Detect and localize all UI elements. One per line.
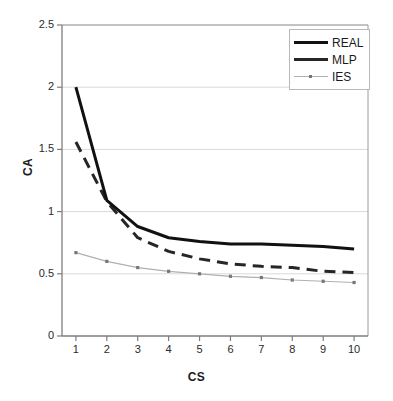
- y-axis-tick-label: 2: [14, 81, 54, 92]
- legend-item-mlp: MLP: [294, 51, 363, 68]
- data-point-marker-ies: [198, 272, 201, 275]
- x-axis-tick-label: 8: [277, 344, 307, 355]
- data-point-marker-ies: [136, 266, 139, 269]
- chart-figure: CA 00.511.522.5 12345678910 CS REAL MLP …: [0, 0, 393, 401]
- chart-legend: REAL MLP IES: [289, 29, 370, 90]
- x-axis-tick-label: 5: [185, 344, 215, 355]
- data-point-marker-ies: [352, 281, 355, 284]
- x-axis-tick-label: 6: [215, 344, 245, 355]
- legend-label-mlp: MLP: [332, 53, 357, 67]
- y-axis-tick-label: 1: [14, 206, 54, 217]
- x-axis-tick-label: 9: [308, 344, 338, 355]
- x-axis-title: CS: [0, 370, 393, 384]
- series-line-mlp: [76, 142, 354, 273]
- y-axis-tick-label: 0.5: [14, 268, 54, 279]
- y-axis-tick-labels: 00.511.522.5: [14, 0, 54, 401]
- dashed-line-sample-mlp-icon: [294, 54, 328, 66]
- x-axis-tick-label: 2: [92, 344, 122, 355]
- data-point-marker-ies: [291, 278, 294, 281]
- data-point-marker-ies: [105, 260, 108, 263]
- legend-label-ies: IES: [332, 70, 351, 84]
- series-line-real: [76, 87, 354, 249]
- legend-label-real: REAL: [332, 36, 363, 50]
- y-axis-tick-label: 2.5: [14, 19, 54, 30]
- data-point-marker-ies: [229, 275, 232, 278]
- data-point-marker-ies: [260, 276, 263, 279]
- series-line-ies: [76, 253, 354, 283]
- x-axis-tick-label: 7: [246, 344, 276, 355]
- y-axis-tick-label: 0: [14, 330, 54, 341]
- x-axis-tick-label: 10: [339, 344, 369, 355]
- x-axis-tick-label: 3: [123, 344, 153, 355]
- data-point-marker-ies: [167, 270, 170, 273]
- legend-item-ies: IES: [294, 68, 363, 85]
- y-axis-tick-label: 1.5: [14, 143, 54, 154]
- x-axis-tick-label: 1: [61, 344, 91, 355]
- data-point-marker-ies: [322, 280, 325, 283]
- legend-item-real: REAL: [294, 34, 363, 51]
- x-axis-tick-label: 4: [154, 344, 184, 355]
- x-axis-tick-labels: 12345678910: [0, 344, 393, 364]
- data-point-marker-ies: [74, 251, 77, 254]
- thin-line-marker-sample-ies-icon: [294, 71, 328, 83]
- line-sample-real-icon: [294, 37, 328, 49]
